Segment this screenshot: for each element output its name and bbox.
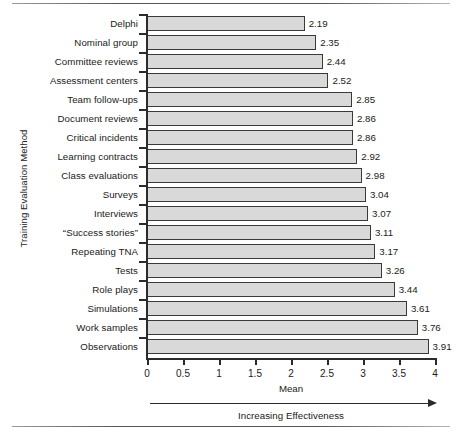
- bar-value-label: 2.19: [309, 16, 328, 31]
- y-axis-tick-label: Work samples: [0, 322, 138, 333]
- bar-value-label: 3.44: [399, 282, 418, 297]
- y-axis-tick-mark: [139, 299, 147, 301]
- increasing-effectiveness-arrow: [150, 399, 438, 409]
- bar: [147, 263, 382, 278]
- top-divider-rule: [12, 3, 450, 4]
- bar: [147, 168, 362, 183]
- x-axis-tick-label: 0: [127, 368, 167, 379]
- y-axis-tick-mark: [139, 185, 147, 187]
- bar-value-label: 3.17: [379, 244, 398, 259]
- y-axis-tick-mark: [139, 337, 147, 339]
- bar: [147, 73, 328, 88]
- bar: [147, 16, 305, 31]
- y-axis-tick-label: Team follow-ups: [0, 94, 138, 105]
- x-axis-tick-label: 3.5: [379, 368, 419, 379]
- bar-value-label: 2.44: [327, 54, 346, 69]
- bottom-divider-rule: [12, 426, 450, 427]
- bar: [147, 301, 407, 316]
- y-axis-tick-label: Learning contracts: [0, 151, 138, 162]
- y-axis-tick-label: Document reviews: [0, 113, 138, 124]
- y-axis-tick-mark: [139, 204, 147, 206]
- x-axis-tick-mark: [399, 358, 401, 365]
- y-axis-tick-label: Interviews: [0, 208, 138, 219]
- bar: [147, 320, 418, 335]
- y-axis-tick-mark: [139, 71, 147, 73]
- x-axis-tick-label: 2.5: [307, 368, 347, 379]
- y-axis-tick-mark: [139, 90, 147, 92]
- x-axis-tick-mark: [147, 358, 149, 365]
- x-axis-tick-mark: [291, 358, 293, 365]
- x-axis-title: Mean: [147, 383, 435, 394]
- y-axis-tick-label: Observations: [0, 341, 138, 352]
- y-axis-tick-mark: [139, 109, 147, 111]
- bar: [147, 187, 366, 202]
- y-axis-tick-label: “Success stories”: [0, 227, 138, 238]
- y-axis-tick-mark: [139, 261, 147, 263]
- bar: [147, 339, 429, 354]
- y-axis-tick-labels: DelphiNominal groupCommittee reviewsAsse…: [0, 16, 143, 358]
- bar: [147, 206, 368, 221]
- y-axis-tick-mark: [139, 52, 147, 54]
- arrow-head-icon: [428, 399, 437, 407]
- bar: [147, 244, 375, 259]
- bar-value-label: 2.92: [361, 149, 380, 164]
- bar-value-label: 3.61: [411, 301, 430, 316]
- x-axis-tick-label: 4: [415, 368, 455, 379]
- bar: [147, 111, 353, 126]
- y-axis-tick-label: Simulations: [0, 303, 138, 314]
- bar: [147, 225, 371, 240]
- y-axis-tick-label: Nominal group: [0, 37, 138, 48]
- y-axis-tick-mark: [139, 242, 147, 244]
- y-axis-line: [146, 14, 148, 360]
- y-axis-tick-label: Delphi: [0, 18, 138, 29]
- bar: [147, 92, 352, 107]
- x-axis-tick-label: 1.5: [235, 368, 275, 379]
- bar-value-label: 2.98: [366, 168, 385, 183]
- y-axis-tick-mark: [139, 147, 147, 149]
- y-axis-tick-mark: [139, 280, 147, 282]
- plot-area: 2.192.352.442.522.852.862.862.922.983.04…: [147, 16, 435, 358]
- effectiveness-annotation: Increasing Effectiveness: [147, 410, 435, 421]
- x-axis-tick-mark: [327, 358, 329, 365]
- bar-value-label: 3.26: [386, 263, 405, 278]
- bar-value-label: 3.11: [375, 225, 393, 240]
- x-axis-tick-mark: [219, 358, 221, 365]
- x-axis-tick-label: 0.5: [163, 368, 203, 379]
- y-axis-tick-mark: [139, 318, 147, 320]
- x-axis-tick-label: 2: [271, 368, 311, 379]
- y-axis-tick-label: Tests: [0, 265, 138, 276]
- y-axis-tick-mark: [139, 14, 147, 16]
- x-axis-tick-mark: [255, 358, 257, 365]
- y-axis-tick-mark: [139, 33, 147, 35]
- x-axis-tick-label: 3: [343, 368, 383, 379]
- bar-value-label: 2.86: [357, 111, 376, 126]
- bar-value-label: 2.52: [332, 73, 351, 88]
- x-axis-tick-mark: [363, 358, 365, 365]
- bar: [147, 130, 353, 145]
- bar-value-label: 3.76: [422, 320, 441, 335]
- bar-value-label: 2.86: [357, 130, 376, 145]
- y-axis-tick-label: Critical incidents: [0, 132, 138, 143]
- y-axis-tick-label: Repeating TNA: [0, 246, 138, 257]
- y-axis-tick-mark: [139, 166, 147, 168]
- y-axis-tick-mark: [139, 128, 147, 130]
- y-axis-tick-label: Role plays: [0, 284, 138, 295]
- bar: [147, 282, 395, 297]
- bar-value-label: 3.04: [370, 187, 389, 202]
- y-axis-tick-mark: [139, 223, 147, 225]
- bar-value-label: 2.35: [320, 35, 339, 50]
- y-axis-tick-label: Assessment centers: [0, 75, 138, 86]
- y-axis-tick-label: Surveys: [0, 189, 138, 200]
- bar: [147, 54, 323, 69]
- bar-value-label: 2.85: [356, 92, 375, 107]
- bar-value-label: 3.91: [433, 339, 452, 354]
- y-axis-tick-label: Committee reviews: [0, 56, 138, 67]
- bar-value-label: 3.07: [372, 206, 391, 221]
- x-axis-tick-label: 1: [199, 368, 239, 379]
- bar: [147, 35, 316, 50]
- y-axis-tick-label: Class evaluations: [0, 170, 138, 181]
- chart-figure: Training Evaluation Method DelphiNominal…: [0, 0, 462, 438]
- arrow-line: [150, 403, 431, 404]
- x-axis-tick-mark: [435, 358, 437, 365]
- bar: [147, 149, 357, 164]
